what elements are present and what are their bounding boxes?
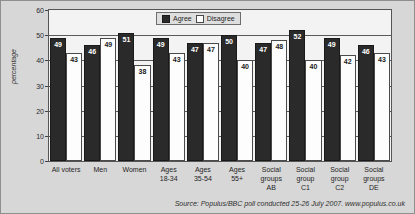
bar-agree: 51 (118, 33, 134, 161)
x-axis-label-line: 55+ (220, 174, 254, 183)
bar-agree: 47 (255, 43, 271, 161)
x-axis-label-line: groups (254, 174, 288, 183)
bar-value-label: 46 (361, 47, 371, 57)
x-axis-label-line: Ages (152, 165, 186, 174)
bar-group: 5138 (117, 10, 151, 161)
bar-group: 4943 (49, 10, 83, 161)
x-axis-label-line: group (288, 174, 322, 183)
chart-legend: Agree Disagree (156, 12, 241, 25)
bar-agree: 47 (187, 43, 203, 161)
y-tick-label: 0 (22, 158, 44, 165)
bar-value-label: 48 (274, 42, 284, 52)
bar-value-label: 49 (327, 40, 337, 50)
bar-disagree: 42 (340, 55, 356, 161)
y-tick-label: 60 (22, 7, 44, 14)
y-tick-mark (45, 86, 48, 87)
x-axis-label: SocialgroupsDE (357, 165, 391, 192)
x-axis-label-line: C1 (288, 183, 322, 192)
x-axis-label-line: AB (254, 183, 288, 192)
bar-value-label: 47 (258, 45, 268, 55)
bar-disagree: 43 (169, 53, 185, 161)
bar-agree: 49 (50, 38, 66, 161)
legend-entry-agree: Agree (162, 15, 192, 23)
bar-group: 4643 (357, 10, 391, 161)
bar-disagree: 43 (66, 53, 82, 161)
bar-value-label: 52 (293, 32, 303, 42)
bar-value-label: 38 (138, 67, 148, 77)
x-axis-label-line: Social (288, 165, 322, 174)
x-axis-label: Women (117, 165, 151, 174)
x-axis-label: SocialgroupC2 (323, 165, 357, 192)
bars-layer: 4943464951384943474750404748524049424643 (49, 10, 391, 161)
bar-agree: 49 (324, 38, 340, 161)
bar-value-label: 51 (122, 35, 132, 45)
legend-swatch-disagree-icon (196, 15, 204, 23)
bar-group: 4747 (186, 10, 220, 161)
y-tick-label: 10 (22, 133, 44, 140)
x-axis-label-line: 35-54 (186, 174, 220, 183)
bar-agree: 49 (153, 38, 169, 161)
bar-disagree: 47 (203, 43, 219, 161)
bar-group: 5040 (220, 10, 254, 161)
x-axis-label: Ages55+ (220, 165, 254, 183)
x-axis-label-line: Women (117, 165, 151, 174)
y-tick-label: 20 (22, 108, 44, 115)
bar-value-label: 49 (103, 40, 113, 50)
bar-group: 4649 (83, 10, 117, 161)
x-axis-label-line: Social (357, 165, 391, 174)
bar-value-label: 47 (206, 45, 216, 55)
bar-value-label: 49 (53, 40, 63, 50)
x-axis-labels: All votersMenWomenAges18-34Ages35-54Ages… (49, 165, 391, 197)
x-axis-label-line: group (323, 174, 357, 183)
bar-value-label: 49 (156, 40, 166, 50)
bar-disagree: 48 (271, 40, 287, 161)
bar-agree: 46 (84, 45, 100, 161)
bar-value-label: 40 (309, 62, 319, 72)
legend-label-agree: Agree (173, 15, 192, 22)
x-axis-label: Ages35-54 (186, 165, 220, 183)
legend-swatch-agree-icon (162, 15, 170, 23)
bar-agree: 46 (358, 45, 374, 161)
x-axis-label: Ages18-34 (152, 165, 186, 183)
y-tick-label: 30 (22, 83, 44, 90)
x-axis-label-line: All voters (49, 165, 83, 174)
y-tick-mark (45, 35, 48, 36)
bar-group: 5240 (288, 10, 322, 161)
y-tick-mark (45, 10, 48, 11)
x-axis-label: SocialgroupC1 (288, 165, 322, 192)
bar-value-label: 42 (343, 57, 353, 67)
x-axis-label-line: C2 (323, 183, 357, 192)
y-tick-mark (45, 136, 48, 137)
bar-value-label: 43 (172, 55, 182, 65)
x-axis-label-line: Ages (186, 165, 220, 174)
x-axis-label-line: Ages (220, 165, 254, 174)
x-axis-label: All voters (49, 165, 83, 174)
legend-entry-disagree: Disagree (196, 15, 235, 23)
y-tick-label: 50 (22, 32, 44, 39)
source-note: Source: Populus/BBC poll conducted 25-26… (175, 200, 405, 207)
x-axis-label-line: DE (357, 183, 391, 192)
y-tick-label: 40 (22, 57, 44, 64)
x-axis-label-line: Social (323, 165, 357, 174)
y-tick-mark (45, 60, 48, 61)
bar-disagree: 40 (237, 60, 253, 161)
bar-group: 4748 (254, 10, 288, 161)
bar-disagree: 49 (100, 38, 116, 161)
bar-disagree: 40 (305, 60, 321, 161)
bar-disagree: 43 (374, 53, 390, 161)
x-axis-label-line: 18-34 (152, 174, 186, 183)
bar-agree: 52 (289, 30, 305, 161)
y-tick-mark (45, 111, 48, 112)
bar-value-label: 43 (377, 55, 387, 65)
bar-disagree: 38 (134, 65, 150, 161)
x-axis-label-line: groups (357, 174, 391, 183)
bar-chart-figure: percentage 0102030405060 494346495138494… (0, 0, 415, 214)
y-tick-mark (45, 161, 48, 162)
bar-value-label: 43 (69, 55, 79, 65)
x-axis-label-line: Men (83, 165, 117, 174)
bar-group: 4943 (152, 10, 186, 161)
bar-value-label: 50 (224, 37, 234, 47)
x-axis-label: Men (83, 165, 117, 174)
bar-group: 4942 (323, 10, 357, 161)
bar-agree: 50 (221, 35, 237, 161)
